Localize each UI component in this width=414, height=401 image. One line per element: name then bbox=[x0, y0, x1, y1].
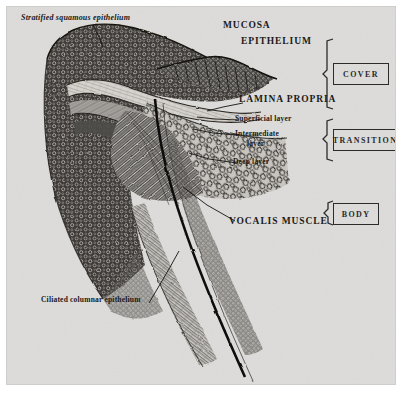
label-deep-layer: Deep layer bbox=[233, 157, 269, 166]
figure-paper: Stratified squamous epithelium MUCOSA EP… bbox=[7, 7, 395, 384]
label-epithelium: EPITHELIUM bbox=[241, 36, 312, 46]
label-vocalis-muscle: VOCALIS MUSCLE bbox=[229, 216, 328, 226]
label-intermediate-layer-line2: layer bbox=[247, 139, 264, 148]
label-ciliated-columnar-epithelium: Ciliated columnar epithelium bbox=[41, 295, 141, 304]
box-label-transition: TRANSITION bbox=[333, 129, 396, 151]
box-label-body: BODY bbox=[333, 203, 379, 225]
label-lamina-propria: LAMINA PROPRIA bbox=[239, 94, 336, 104]
label-stratified-squamous-epithelium: Stratified squamous epithelium bbox=[21, 13, 130, 22]
label-mucosa: MUCOSA bbox=[223, 20, 271, 30]
label-superficial-layer: Superficial layer bbox=[235, 114, 292, 123]
figure-frame: Stratified squamous epithelium MUCOSA EP… bbox=[6, 6, 396, 385]
label-intermediate-layer-line1: Intermediate bbox=[235, 129, 279, 138]
box-label-cover: COVER bbox=[333, 63, 389, 85]
